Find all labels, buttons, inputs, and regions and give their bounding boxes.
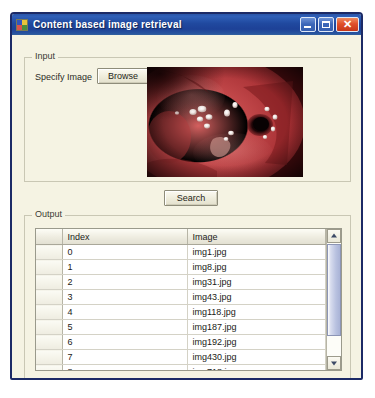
scroll-down-button[interactable]: [327, 356, 341, 370]
table-row[interactable]: 8img718.jpg: [36, 365, 326, 371]
maximize-button[interactable]: [318, 17, 334, 32]
row-selector-cell[interactable]: [36, 290, 62, 305]
column-header-select[interactable]: [36, 229, 62, 245]
cell-index: 3: [62, 290, 187, 305]
table-row[interactable]: 6img192.jpg: [36, 335, 326, 350]
row-selector-cell[interactable]: [36, 275, 62, 290]
input-group-label: Input: [32, 51, 58, 61]
specify-image-label: Specify Image: [35, 72, 92, 82]
image-preview-frame: [147, 67, 303, 177]
results-table-viewport: Index Image 0img1.jpg 1img8.jpg 2img31.j…: [36, 229, 326, 370]
search-button[interactable]: Search: [164, 190, 218, 206]
row-selector-cell[interactable]: [36, 335, 62, 350]
results-table-head: Index Image: [36, 229, 326, 245]
row-selector-cell[interactable]: [36, 350, 62, 365]
input-group: Input Specify Image Browse: [24, 57, 351, 182]
row-selector-cell[interactable]: [36, 365, 62, 371]
window-controls: ✕: [300, 17, 359, 32]
cell-index: 1: [62, 260, 187, 275]
cell-image: img118.jpg: [187, 305, 326, 320]
cell-index: 0: [62, 245, 187, 260]
chevron-up-icon: [331, 234, 337, 238]
cell-image: img718.jpg: [187, 365, 326, 371]
cell-index: 8: [62, 365, 187, 371]
results-table-container: Index Image 0img1.jpg 1img8.jpg 2img31.j…: [35, 228, 342, 371]
output-group-label: Output: [32, 209, 65, 219]
row-selector-cell[interactable]: [36, 245, 62, 260]
close-icon: ✕: [337, 18, 358, 31]
row-selector-cell[interactable]: [36, 260, 62, 275]
results-table-body: 0img1.jpg 1img8.jpg 2img31.jpg 3img43.jp…: [36, 245, 326, 371]
application-window: Content based image retrieval ✕ Input Sp…: [10, 12, 363, 380]
cell-image: img430.jpg: [187, 350, 326, 365]
cell-image: img31.jpg: [187, 275, 326, 290]
close-button[interactable]: ✕: [336, 17, 359, 32]
table-row[interactable]: 3img43.jpg: [36, 290, 326, 305]
row-selector-cell[interactable]: [36, 305, 62, 320]
cell-index: 2: [62, 275, 187, 290]
browse-button[interactable]: Browse: [97, 68, 149, 84]
table-row[interactable]: 1img8.jpg: [36, 260, 326, 275]
maximize-icon: [322, 21, 330, 28]
cell-image: img192.jpg: [187, 335, 326, 350]
window-title: Content based image retrieval: [33, 19, 300, 30]
scroll-up-button[interactable]: [327, 229, 341, 243]
cell-image: img43.jpg: [187, 290, 326, 305]
table-header-row: Index Image: [36, 229, 326, 245]
minimize-icon: [304, 26, 311, 28]
cell-index: 6: [62, 335, 187, 350]
table-row[interactable]: 5img187.jpg: [36, 320, 326, 335]
column-header-image[interactable]: Image: [187, 229, 326, 245]
chevron-down-icon: [331, 361, 337, 365]
table-row[interactable]: 7img430.jpg: [36, 350, 326, 365]
cell-image: img187.jpg: [187, 320, 326, 335]
cell-image: img8.jpg: [187, 260, 326, 275]
cell-image: img1.jpg: [187, 245, 326, 260]
column-header-index[interactable]: Index: [62, 229, 187, 245]
results-vertical-scrollbar[interactable]: [326, 229, 341, 370]
endoscopic-image-preview: [147, 67, 303, 177]
table-row[interactable]: 2img31.jpg: [36, 275, 326, 290]
cell-index: 4: [62, 305, 187, 320]
cell-index: 5: [62, 320, 187, 335]
output-group: Output Index Image: [24, 215, 351, 380]
table-row[interactable]: 4img118.jpg: [36, 305, 326, 320]
title-bar[interactable]: Content based image retrieval ✕: [12, 14, 361, 35]
scrollbar-thumb[interactable]: [327, 244, 341, 336]
application-icon: [16, 19, 28, 31]
minimize-button[interactable]: [300, 17, 316, 32]
client-area: Input Specify Image Browse: [12, 35, 361, 378]
row-selector-cell[interactable]: [36, 320, 62, 335]
table-row[interactable]: 0img1.jpg: [36, 245, 326, 260]
results-table: Index Image 0img1.jpg 1img8.jpg 2img31.j…: [36, 229, 326, 370]
cell-index: 7: [62, 350, 187, 365]
